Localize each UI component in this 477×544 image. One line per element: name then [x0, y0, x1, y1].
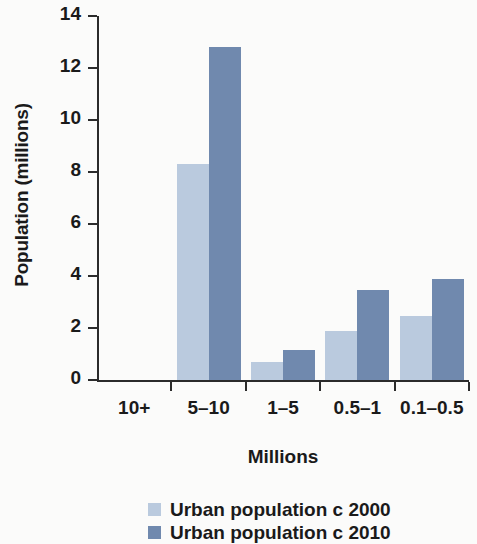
- y-axis-tick: 0: [88, 379, 97, 381]
- x-axis-title: Millions: [97, 446, 469, 468]
- x-axis-category-label: 0.1–0.5: [395, 396, 469, 420]
- y-axis-line: [97, 16, 99, 382]
- y-axis-tick: 14: [88, 15, 97, 17]
- y-axis-tick-label: 6: [70, 211, 81, 233]
- plot-area: 02468101214: [97, 16, 469, 382]
- legend-item-label: Urban population c 2010: [170, 521, 391, 544]
- y-axis-tick: 6: [88, 223, 97, 225]
- x-axis-tick: [468, 382, 470, 391]
- x-axis-tick: [394, 382, 396, 391]
- y-axis-tick-label: 12: [60, 55, 81, 77]
- y-axis-tick: 8: [88, 171, 97, 173]
- bar-2010: [357, 290, 389, 380]
- x-axis-line: [97, 380, 469, 382]
- x-axis-tick: [319, 382, 321, 391]
- bar-2000: [177, 164, 209, 380]
- bar-2000: [251, 362, 283, 380]
- chart-legend: Urban population c 2000Urban population …: [148, 498, 468, 544]
- x-axis-category-label: 5–10: [171, 396, 245, 420]
- y-axis-tick-label: 14: [60, 3, 81, 25]
- bar-2010: [283, 350, 315, 380]
- y-axis-tick-label: 2: [70, 315, 81, 337]
- x-axis-tick: [170, 382, 172, 391]
- y-axis-title: Population (millions): [0, 0, 44, 390]
- x-axis-tick-labels: 10+5–101–50.5–10.1–0.5: [97, 396, 469, 426]
- y-axis-tick-label: 4: [70, 263, 81, 285]
- legend-item-label: Urban population c 2000: [170, 498, 391, 521]
- bar-2000: [400, 316, 432, 380]
- y-axis-tick: 4: [88, 275, 97, 277]
- bar-2010: [209, 47, 241, 380]
- bar-2000: [325, 331, 357, 380]
- legend-color-swatch: [148, 526, 161, 539]
- legend-item: Urban population c 2010: [148, 521, 468, 544]
- y-axis-tick: 10: [88, 119, 97, 121]
- legend-item: Urban population c 2000: [148, 498, 468, 521]
- y-axis-title-text: Population (millions): [11, 103, 33, 287]
- bar-chart-figure: Population (millions) 02468101214 10+5–1…: [0, 0, 477, 544]
- y-axis-tick: 2: [88, 327, 97, 329]
- x-axis-category-label: 10+: [97, 396, 171, 420]
- x-axis-category-label: 1–5: [246, 396, 320, 420]
- x-axis-tick: [245, 382, 247, 391]
- y-axis-tick-label: 10: [60, 107, 81, 129]
- y-axis-tick-label: 0: [70, 367, 81, 389]
- bar-2010: [432, 279, 464, 380]
- y-axis-tick-label: 8: [70, 159, 81, 181]
- x-axis-category-label: 0.5–1: [320, 396, 394, 420]
- y-axis-tick: 12: [88, 67, 97, 69]
- legend-color-swatch: [148, 503, 161, 516]
